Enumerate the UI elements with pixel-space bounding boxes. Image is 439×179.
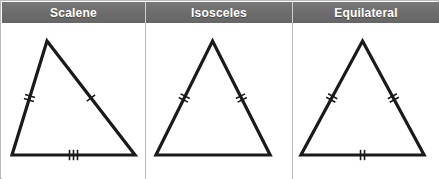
scalene-triangle-diagram — [2, 23, 145, 179]
header-label-equilateral: Equilateral — [334, 7, 398, 19]
header-label-isosceles: Isosceles — [191, 7, 247, 19]
header-cell-scalene: Scalene — [2, 2, 145, 23]
table-body-row — [2, 23, 439, 179]
diagram-cell-scalene — [2, 23, 145, 179]
table-frame: Scalene Isosceles Equilateral — [0, 0, 439, 179]
header-label-scalene: Scalene — [50, 7, 97, 19]
equilateral-triangle-outline — [301, 41, 424, 155]
diagram-cell-isosceles — [145, 23, 292, 179]
table-header-row: Scalene Isosceles Equilateral — [2, 2, 439, 23]
triangle-classification-figure: Scalene Isosceles Equilateral — [0, 0, 439, 179]
isosceles-triangle-diagram — [146, 23, 292, 179]
header-cell-isosceles: Isosceles — [145, 2, 292, 23]
diagram-cell-equilateral — [292, 23, 439, 179]
equilateral-triangle-diagram — [293, 23, 439, 179]
scalene-triangle-outline — [12, 41, 135, 155]
isosceles-triangle-outline — [156, 41, 270, 155]
header-cell-equilateral: Equilateral — [292, 2, 439, 23]
